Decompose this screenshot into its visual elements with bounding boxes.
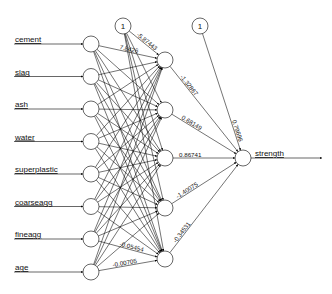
hidden-node [157, 150, 173, 166]
input-label-water: water [14, 133, 35, 142]
nodes [83, 18, 251, 280]
hidden-node [157, 251, 173, 267]
edge-bias-hidden [124, 34, 163, 251]
weight-label: -1.40075 [174, 180, 199, 199]
labels: cementslagashwatersuperplasticcoarseaggf… [14, 22, 284, 272]
input-label-slag: slag [15, 68, 30, 77]
input-node [83, 231, 99, 247]
edge-input-hidden [99, 207, 157, 208]
input-label-cement: cement [15, 35, 42, 44]
weight-label: 0.68149 [181, 114, 204, 132]
weight-label: 0.79696 [231, 119, 245, 143]
hidden-node [157, 52, 173, 68]
input-node [83, 36, 99, 52]
output-label: strength [255, 149, 284, 158]
network-svg: cementslagashwatersuperplasticcoarseaggf… [0, 0, 332, 294]
edge-hidden-output [172, 162, 237, 203]
input-node [83, 69, 99, 85]
output-node [235, 150, 251, 166]
input-node [83, 166, 99, 182]
weight-label: -0.00705 [112, 257, 138, 268]
bias-node-label: 1 [121, 22, 126, 31]
input-label-age: age [15, 263, 29, 272]
input-label-coarseagg: coarseagg [15, 198, 52, 207]
bias-node-label: 1 [198, 22, 203, 31]
weight-label: 0.86741 [179, 151, 202, 158]
hidden-node [157, 102, 173, 118]
input-node [83, 134, 99, 150]
edge-input-hidden [96, 116, 160, 200]
edge-input-hidden [99, 109, 157, 110]
input-label-ash: ash [15, 100, 28, 109]
input-node [83, 199, 99, 215]
weight-label: -0.34531 [171, 220, 192, 244]
edge-input-hidden [98, 80, 157, 107]
neural-network-diagram: cementslagashwatersuperplasticcoarseaggf… [0, 0, 332, 294]
hidden-node [157, 200, 173, 216]
input-label-superplastic: superplastic [15, 165, 58, 174]
edge-input-hidden [99, 62, 157, 75]
input-node [83, 101, 99, 117]
input-node [83, 264, 99, 280]
edge-input-hidden [95, 148, 160, 252]
edge-input-hidden [94, 68, 163, 265]
weight-label: -5.87443 [136, 31, 160, 52]
weight-label: -1.32867 [179, 73, 200, 97]
input-label-fineagg: fineagg [15, 230, 41, 239]
